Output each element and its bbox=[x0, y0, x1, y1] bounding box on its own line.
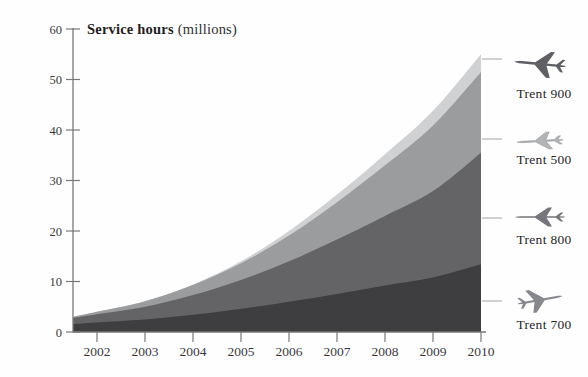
legend-label-trent-500: Trent 500 bbox=[499, 152, 588, 168]
y-tick-label: 20 bbox=[50, 225, 63, 239]
chart-title: Service hours(millions) bbox=[87, 21, 237, 38]
y-tick-label: 60 bbox=[50, 23, 63, 37]
x-tick-label: 2004 bbox=[180, 344, 207, 359]
x-tick-label: 2008 bbox=[372, 344, 399, 359]
x-tick-label: 2002 bbox=[84, 344, 111, 359]
y-tick-label: 30 bbox=[50, 174, 63, 188]
x-tick-label: 2003 bbox=[132, 344, 159, 359]
legend-label-trent-800: Trent 800 bbox=[499, 232, 588, 248]
x-tick-label: 2006 bbox=[276, 344, 303, 359]
x-tick-label: 2009 bbox=[420, 344, 447, 359]
legend-label-trent-900: Trent 900 bbox=[499, 86, 588, 102]
y-tick-label: 0 bbox=[56, 326, 62, 340]
legend-label-trent-700: Trent 700 bbox=[499, 317, 588, 333]
trent-900-aircraft-icon bbox=[501, 39, 579, 89]
chart-title-unit: (millions) bbox=[178, 21, 237, 37]
y-tick-label: 50 bbox=[50, 73, 63, 87]
x-tick-label: 2007 bbox=[324, 344, 351, 359]
chart-title-main: Service hours bbox=[87, 21, 174, 37]
x-tick-label: 2005 bbox=[228, 344, 255, 359]
y-tick-label: 10 bbox=[50, 275, 63, 289]
chart-container: 0102030405060200220032004200520062007200… bbox=[0, 0, 588, 377]
y-tick-label: 40 bbox=[50, 124, 63, 138]
x-tick-label: 2010 bbox=[468, 344, 495, 359]
